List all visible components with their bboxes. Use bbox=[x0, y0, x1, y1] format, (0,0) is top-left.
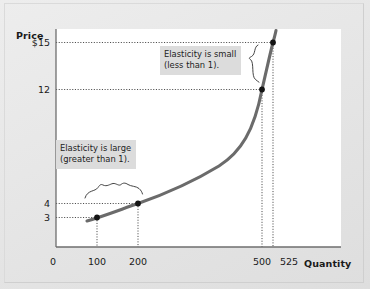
y-tick-label-4: 4 bbox=[18, 198, 50, 209]
x-tick-label-200: 200 bbox=[123, 256, 153, 267]
annotation-elasticity-small: Elasticity is small (less than 1). bbox=[160, 46, 241, 75]
brace-horizontal-large-elasticity bbox=[85, 183, 143, 198]
data-point-500-12 bbox=[259, 87, 265, 93]
elasticity-supply-curve-figure: Price Quantity $15 12 4 3 0 100 200 500 … bbox=[0, 0, 370, 289]
y-tick-label-3: 3 bbox=[18, 212, 50, 223]
data-point-100-3 bbox=[94, 215, 100, 221]
annotation-elasticity-large: Elasticity is large (greater than 1). bbox=[56, 140, 136, 169]
data-point-200-4 bbox=[135, 201, 141, 207]
brace-vertical-small-elasticity bbox=[249, 45, 259, 82]
data-point-525-15 bbox=[270, 40, 276, 46]
x-axis-title: Quantity bbox=[304, 258, 351, 269]
y-tick-label-15: $15 bbox=[18, 37, 50, 48]
x-tick-label-500: 500 bbox=[247, 256, 277, 267]
x-tick-label-0: 0 bbox=[42, 256, 64, 267]
x-tick-label-100: 100 bbox=[82, 256, 112, 267]
x-tick-label-525: 525 bbox=[274, 256, 304, 267]
y-tick-label-12: 12 bbox=[18, 84, 50, 95]
figure-page: Price Quantity $15 12 4 3 0 100 200 500 … bbox=[0, 0, 370, 289]
